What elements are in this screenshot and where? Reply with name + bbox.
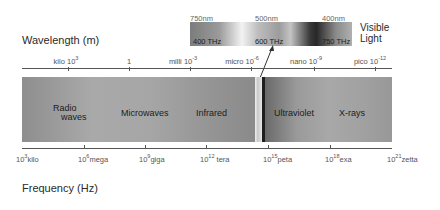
wavelength-axis-title: Wavelength (m)	[22, 34, 99, 46]
wavelength-tick	[190, 67, 191, 71]
visible-light-title: Visible Light	[360, 22, 389, 44]
frequency-label-tera: 1012 tera	[200, 155, 230, 164]
frequency-tick	[145, 145, 146, 149]
region-xrays: X-rays	[339, 109, 365, 118]
frequency-axis-title: Frequency (Hz)	[22, 182, 98, 194]
wavelength-label-kilo: kilo 103	[54, 57, 79, 66]
frequency-axis-line	[22, 148, 392, 149]
frequency-tick	[330, 145, 331, 149]
wavelength-label-micro: micro 10-6	[225, 57, 259, 66]
visible-wavelength-500: 500nm	[255, 14, 278, 23]
frequency-tick	[268, 145, 269, 149]
visible-frequency-400: 400 THz	[193, 37, 221, 46]
wavelength-tick	[129, 67, 130, 71]
region-infrared: Infrared	[196, 109, 227, 118]
region-radio-line2: waves	[53, 113, 87, 122]
visible-frequency-750: 750 THz	[322, 37, 350, 46]
wavelength-tick	[251, 67, 252, 71]
wavelength-label-one: 1	[127, 57, 131, 66]
visible-wavelength-400: 400nm	[322, 14, 345, 23]
wavelength-tick	[314, 67, 315, 71]
wavelength-label-milli: milli 10-3	[169, 57, 197, 66]
region-microwaves: Microwaves	[121, 109, 169, 118]
wavelength-label-pico: pico 10-12	[354, 57, 386, 66]
frequency-label-mega: 106mega	[78, 155, 108, 164]
frequency-tick	[206, 145, 207, 149]
visible-wavelength-750: 750nm	[190, 14, 213, 23]
region-radio-waves: Radio waves	[53, 104, 87, 122]
spectrum-visible-gap	[255, 77, 262, 142]
visible-light-title-line1: Visible	[360, 22, 389, 33]
wavelength-axis-line	[22, 68, 392, 69]
region-ultraviolet: Ultraviolet	[274, 109, 314, 118]
frequency-label-kilo: 103kilo	[16, 155, 39, 164]
frequency-label-zetta: 1021zetta	[387, 155, 418, 164]
frequency-label-giga: 109giga	[139, 155, 165, 164]
frequency-tick	[84, 145, 85, 149]
frequency-label-exa: 1018exa	[325, 155, 352, 164]
wavelength-tick	[375, 67, 376, 71]
frequency-label-peta: 1015peta	[263, 155, 292, 164]
wavelength-tick	[68, 67, 69, 71]
arrow-icon	[258, 44, 278, 80]
visible-light-title-line2: Light	[360, 33, 389, 44]
wavelength-label-nano: nano 10-9	[290, 57, 322, 66]
